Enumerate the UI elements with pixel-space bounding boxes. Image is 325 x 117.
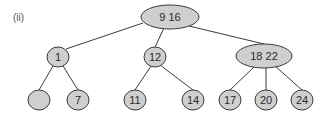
tree-node-leaf17: 17 xyxy=(219,90,241,110)
tree-node-n18_22: 18 22 xyxy=(236,44,292,68)
tree-node-leaf24: 24 xyxy=(291,90,313,110)
edge-n12-leaf11 xyxy=(135,66,151,90)
panel-label: (ii) xyxy=(13,12,24,23)
node-keys: 1 xyxy=(55,51,61,63)
node-keys: 7 xyxy=(75,94,81,106)
node-keys: 18 22 xyxy=(250,50,278,62)
tree-diagram: (ii) 9 1611218 2271114172024 xyxy=(0,0,325,117)
tree-node-n12: 12 xyxy=(144,47,166,67)
nodes: 9 1611218 2271114172024 xyxy=(28,5,313,110)
edge-root-n18_22 xyxy=(189,26,264,44)
node-keys: 11 xyxy=(129,94,140,106)
tree-node-leaf14: 14 xyxy=(182,90,204,110)
node-keys: 24 xyxy=(296,94,308,106)
edge-n12-leaf14 xyxy=(160,65,193,90)
node-keys: 14 xyxy=(187,94,199,106)
node-keys: 12 xyxy=(149,51,161,63)
node-shape xyxy=(28,90,50,110)
node-keys: 9 16 xyxy=(159,11,180,23)
edge-n18_22-leaf17 xyxy=(230,66,255,90)
node-keys: 20 xyxy=(260,94,272,106)
tree-node-leaf7: 7 xyxy=(67,90,89,110)
node-keys: 17 xyxy=(224,94,236,106)
tree-node-leaf_empty xyxy=(28,90,50,110)
tree-node-n1: 1 xyxy=(47,47,69,67)
edge-root-n1 xyxy=(66,23,143,49)
tree-node-root: 9 16 xyxy=(141,5,199,29)
edge-n18_22-leaf24 xyxy=(275,66,302,90)
edge-root-n12 xyxy=(155,28,164,47)
edge-n1-leaf_empty xyxy=(39,66,53,90)
tree-node-leaf11: 11 xyxy=(124,90,146,110)
edge-n1-leaf7 xyxy=(63,66,78,90)
tree-node-leaf20: 20 xyxy=(255,90,277,110)
